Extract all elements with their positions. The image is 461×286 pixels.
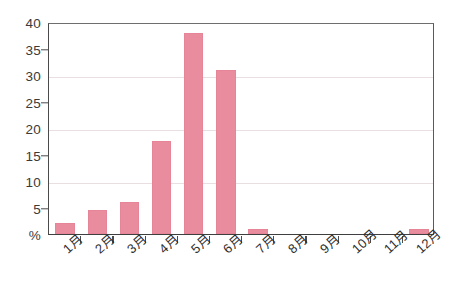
bar-slot	[403, 24, 435, 234]
bar	[152, 141, 171, 234]
bar-slot	[306, 24, 338, 234]
bar-slot	[81, 24, 113, 234]
y-tick-label: 20	[25, 122, 41, 137]
y-tick-label: 10	[25, 175, 41, 190]
bar-slot	[339, 24, 371, 234]
y-tick-label: 40	[25, 16, 41, 31]
y-tick-label: 15	[25, 148, 41, 163]
y-tick-label: 30	[25, 69, 41, 84]
bar-slot	[371, 24, 403, 234]
y-tick-label: 5	[33, 201, 41, 216]
y-axis: 403530252015105%	[0, 0, 48, 286]
y-tick-label: %	[29, 228, 41, 243]
y-tick-label: 35	[25, 42, 41, 57]
plot-area	[48, 23, 434, 235]
y-tick-mark	[41, 49, 48, 50]
x-axis-labels: 1月2月3月4月5月6月7月8月9月10月11月12月	[48, 239, 434, 286]
bar	[216, 70, 235, 234]
bar-slot	[274, 24, 306, 234]
bar-slot	[49, 24, 81, 234]
bar-slot	[210, 24, 242, 234]
y-tick-mark	[41, 208, 48, 209]
bar-slot	[113, 24, 145, 234]
y-tick-label: 25	[25, 95, 41, 110]
bar-chart: 403530252015105% 1月2月3月4月5月6月7月8月9月10月11…	[0, 0, 461, 286]
bar-series	[49, 24, 433, 234]
y-tick-mark	[41, 102, 48, 103]
y-tick-mark	[41, 155, 48, 156]
bar-slot	[242, 24, 274, 234]
bar	[184, 33, 203, 234]
bar-slot	[178, 24, 210, 234]
bar-slot	[146, 24, 178, 234]
